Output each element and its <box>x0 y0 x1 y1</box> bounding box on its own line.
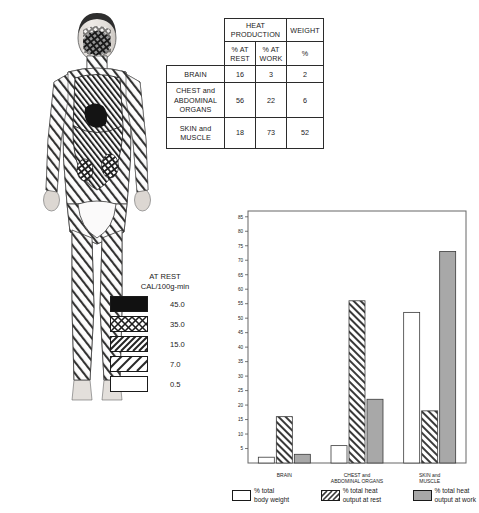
key-row-7: 7.0 <box>110 356 220 372</box>
bar-white-0 <box>258 457 274 463</box>
table-group-header-row: HEAT PRODUCTION WEIGHT <box>167 19 324 42</box>
table-row: CHEST and ABDOMINAL ORGANS 56 22 6 <box>167 83 324 118</box>
x-axis-label-1: ABDOMINAL ORGANS <box>331 478 384 484</box>
y-axis-ticks: 510152025303540455055606570758085 <box>238 215 248 452</box>
y-axis-tick-label: 35 <box>238 359 244 364</box>
key-title-line2: CAL/100g-min <box>110 282 220 292</box>
key-row-15: 15.0 <box>110 336 220 352</box>
cell-brain-work: 3 <box>256 66 287 83</box>
cell-skin-work: 73 <box>256 118 287 149</box>
dense-diagonal-swatch-svg <box>111 337 147 351</box>
y-axis-tick-label: 65 <box>238 273 244 278</box>
bar-gray-2 <box>440 252 456 463</box>
x-axis-label-2: MUSCLE <box>419 478 441 484</box>
swatch-cross-hatch-icon <box>110 316 148 332</box>
cell-brain-weight: 2 <box>287 66 324 83</box>
table-corner-cell-2 <box>167 42 225 66</box>
y-axis-tick-label: 75 <box>238 244 244 249</box>
group-header-weight: WEIGHT <box>287 19 324 42</box>
sparse-diagonal-swatch-svg <box>111 357 147 371</box>
x-axis-label-0: BRAIN <box>277 472 293 478</box>
legend-item-body-weight: % total body weight <box>232 487 289 504</box>
legend-swatch-white-icon <box>232 490 251 501</box>
row-label-skin: SKIN and MUSCLE <box>167 118 225 149</box>
sub-header-at-rest: % AT REST <box>225 42 256 66</box>
key-value-15: 15.0 <box>170 340 185 349</box>
cell-skin-weight: 52 <box>287 118 324 149</box>
key-value-05: 0.5 <box>170 380 181 389</box>
y-axis-tick-label: 15 <box>238 417 244 422</box>
cell-brain-rest: 16 <box>225 66 256 83</box>
y-axis-tick-label: 50 <box>238 316 244 321</box>
bar-gray-0 <box>294 454 310 463</box>
key-row-35: 35.0 <box>110 316 220 332</box>
table-row: BRAIN 16 3 2 <box>167 66 324 83</box>
chart-legend: % total body weight % total heat output … <box>232 487 476 504</box>
legend-item-heat-rest: % total heat output at rest <box>321 487 382 504</box>
table-corner-cell <box>167 19 225 42</box>
swatch-sparse-diagonal-icon <box>110 356 148 372</box>
legend-label-0-line1: % total <box>254 487 289 496</box>
legend-hatch-svg <box>322 491 339 500</box>
bar-gray-1 <box>367 399 383 463</box>
at-rest-key: AT REST CAL/100g-min 45.0 35.0 <box>110 272 220 396</box>
key-value-45: 45.0 <box>170 300 185 309</box>
legend-label-1-line1: % total heat <box>343 487 382 496</box>
x-axis-labels: BRAINCHEST andABDOMINAL ORGANSSKIN andMU… <box>277 472 441 484</box>
data-table-wrap: HEAT PRODUCTION WEIGHT % AT REST % AT WO… <box>166 18 324 149</box>
bar-hatched-0 <box>276 417 292 463</box>
legend-swatch-gray-icon <box>413 490 432 501</box>
key-value-35: 35.0 <box>170 320 185 329</box>
legend-label-2-line1: % total heat <box>435 487 476 496</box>
y-axis-tick-label: 25 <box>238 388 244 393</box>
sub-header-percent: % <box>287 42 324 66</box>
legend-label-2-line2: output at work <box>435 496 476 505</box>
bar-hatched-1 <box>349 301 365 463</box>
cell-chest-rest: 56 <box>225 83 256 118</box>
key-row-05: 0.5 <box>110 376 220 392</box>
group-header-heat-production: HEAT PRODUCTION <box>225 19 287 42</box>
y-axis-tick-label: 30 <box>238 374 244 379</box>
bar-hatched-2 <box>422 411 438 463</box>
swatch-blank-white-icon <box>110 376 148 392</box>
key-row-45: 45.0 <box>110 296 220 312</box>
y-axis-tick-label: 10 <box>238 432 244 437</box>
table-row: SKIN and MUSCLE 18 73 52 <box>167 118 324 149</box>
sub-header-at-work: % AT WORK <box>256 42 287 66</box>
key-title-line1: AT REST <box>110 272 220 282</box>
bar-chart-panel: 510152025303540455055606570758085 BRAINC… <box>228 205 474 505</box>
cell-chest-work: 22 <box>256 83 287 118</box>
table-sub-header-row: % AT REST % AT WORK % <box>167 42 324 66</box>
y-axis-tick-label: 20 <box>238 403 244 408</box>
bar-chart-svg: 510152025303540455055606570758085 BRAINC… <box>228 205 474 505</box>
y-axis-tick-label: 80 <box>238 229 244 234</box>
y-axis-tick-label: 40 <box>238 345 244 350</box>
swatch-dense-diagonal-icon <box>110 336 148 352</box>
legend-swatch-hatched-icon <box>321 490 340 501</box>
legend-item-heat-work: % total heat output at work <box>413 487 476 504</box>
cell-chest-weight: 6 <box>287 83 324 118</box>
y-axis-tick-label: 45 <box>238 330 244 335</box>
legend-label-1-line2: output at rest <box>343 496 382 505</box>
cell-skin-rest: 18 <box>225 118 256 149</box>
heat-production-table: HEAT PRODUCTION WEIGHT % AT REST % AT WO… <box>166 18 324 149</box>
y-axis-tick-label: 60 <box>238 287 244 292</box>
y-axis-tick-label: 85 <box>238 215 244 220</box>
cross-hatch-swatch-svg <box>111 317 147 331</box>
key-title: AT REST CAL/100g-min <box>110 272 220 292</box>
y-axis-tick-label: 5 <box>240 446 243 451</box>
swatch-solid-black-icon <box>110 296 148 312</box>
row-label-chest: CHEST and ABDOMINAL ORGANS <box>167 83 225 118</box>
bar-white-2 <box>404 312 420 463</box>
legend-label-0-line2: body weight <box>254 496 289 505</box>
y-axis-tick-label: 70 <box>238 258 244 263</box>
bar-white-1 <box>331 446 347 463</box>
key-value-7: 7.0 <box>170 360 181 369</box>
row-label-brain: BRAIN <box>167 66 225 83</box>
y-axis-tick-label: 55 <box>238 301 244 306</box>
